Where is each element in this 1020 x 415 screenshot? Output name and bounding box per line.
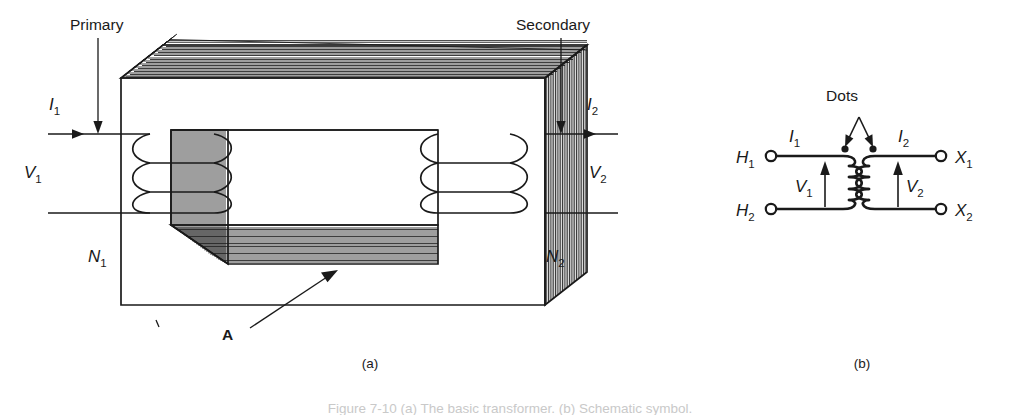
- terminal-h2-circle[interactable]: [766, 204, 776, 214]
- panel-b-primary-voltage-label: V1: [795, 177, 813, 199]
- terminal-h2-label: H2: [736, 201, 755, 223]
- primary-circuit-conductor: [777, 156, 855, 166]
- panel-b-label: (b): [854, 356, 871, 371]
- secondary-circuit-bottom-conductor: [863, 200, 935, 209]
- area-pointer-arrowhead: [321, 270, 338, 282]
- secondary-current-arrowhead: [584, 129, 596, 139]
- primary-turns-label: N1: [88, 247, 107, 269]
- primary-voltage-label: V1: [24, 163, 42, 185]
- primary-winding-coils: [133, 134, 232, 213]
- secondary-turns-symbol: N: [546, 247, 559, 266]
- core-window-bottom-lamination-lines: [175, 228, 438, 262]
- dots-label: Dots: [826, 87, 858, 104]
- terminal-h1-circle[interactable]: [766, 151, 776, 161]
- secondary-voltage-subscript: 2: [600, 173, 606, 185]
- polarity-dot-secondary: [869, 145, 876, 152]
- secondary-voltage-arrowhead: [893, 161, 903, 175]
- primary-current-subscript: 1: [54, 105, 60, 117]
- primary-voltage-arrowhead: [820, 161, 830, 175]
- terminal-x2-symbol: X: [954, 201, 967, 220]
- core-base-tick-mark: [156, 320, 159, 327]
- primary-current-label: I1: [49, 95, 60, 117]
- secondary-current-label: I2: [587, 95, 598, 117]
- terminal-x2-subscript: 2: [966, 211, 972, 223]
- core-top-lamination-lines: [122, 34, 587, 77]
- primary-annotation-label: Primary: [70, 16, 124, 33]
- panel-a-label: (a): [362, 356, 379, 371]
- terminal-x1-symbol: X: [954, 148, 967, 167]
- secondary-annotation-label: Secondary: [516, 16, 590, 33]
- panel-a-core-transformer: Primary Secondary I1 I2 V1 V2 N1 N2 A (a…: [24, 16, 618, 371]
- primary-circuit-bottom-conductor: [777, 200, 855, 209]
- primary-turns-subscript: 1: [100, 257, 106, 269]
- terminal-x2-circle[interactable]: [936, 204, 946, 214]
- terminal-h2-symbol: H: [736, 201, 749, 220]
- terminal-x1-label: X1: [954, 148, 973, 170]
- transformer-figure-svg: Primary Secondary I1 I2 V1 V2 N1 N2 A (a…: [0, 0, 1020, 415]
- figure-root: Primary Secondary I1 I2 V1 V2 N1 N2 A (a…: [0, 0, 1020, 415]
- terminal-h2-subscript: 2: [748, 211, 754, 223]
- secondary-current-subscript: 2: [592, 105, 598, 117]
- panel-b-schematic-symbol: Dots H1 H2 X1 X2 I1 I2 V1 V2 (b): [736, 87, 973, 371]
- terminal-x1-subscript: 1: [966, 158, 972, 170]
- terminal-x1-circle[interactable]: [936, 151, 946, 161]
- primary-current-arrowhead: [72, 129, 84, 139]
- primary-voltage-subscript: 1: [35, 173, 41, 185]
- terminal-h1-subscript: 1: [748, 158, 754, 170]
- terminal-h1-symbol: H: [736, 148, 749, 167]
- primary-annotation-arrowhead: [93, 121, 102, 134]
- panel-b-secondary-voltage-label: V2: [906, 177, 924, 199]
- primary-turns-symbol: N: [88, 247, 101, 266]
- area-pointer-arrow-shaft: [250, 275, 330, 328]
- polarity-dot-primary: [841, 145, 848, 152]
- panel-b-primary-voltage-subscript: 1: [806, 187, 812, 199]
- panel-b-primary-current-subscript: 1: [794, 137, 800, 149]
- panel-b-primary-current-label: I1: [789, 127, 800, 149]
- figure-caption: Figure 7-10 (a) The basic transformer. (…: [0, 401, 1020, 415]
- core-window-left-lamination-lines: [173, 130, 225, 263]
- panel-b-secondary-current-subscript: 2: [903, 137, 909, 149]
- panel-b-secondary-voltage-subscript: 2: [917, 187, 923, 199]
- secondary-turns-label: N2: [546, 247, 565, 269]
- secondary-winding-coils: [421, 134, 528, 213]
- secondary-turns-subscript: 2: [558, 257, 564, 269]
- core-area-label: A: [222, 326, 233, 343]
- secondary-voltage-label: V2: [589, 163, 607, 185]
- panel-b-secondary-current-label: I2: [898, 127, 909, 149]
- terminal-h1-label: H1: [736, 148, 755, 170]
- terminal-x2-label: X2: [954, 201, 973, 223]
